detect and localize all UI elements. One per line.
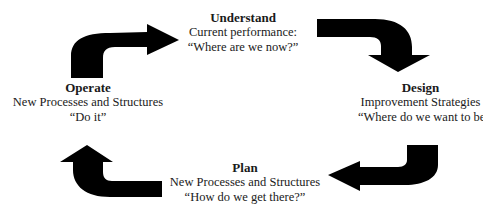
node-title: Operate	[8, 80, 168, 95]
node-operate: Operate New Processes and Structures “Do…	[8, 80, 168, 125]
node-subtitle: Improvement Strategies	[358, 95, 483, 110]
node-plan: Plan New Processes and Structures “How d…	[165, 160, 325, 205]
cycle-diagram: Understand Current performance: “Where a…	[0, 0, 483, 213]
node-question: “Where are we now?”	[183, 40, 303, 55]
node-question: “Do it”	[8, 110, 168, 125]
node-subtitle: New Processes and Structures	[8, 95, 168, 110]
curved-arrow-right-down-icon	[317, 19, 430, 72]
node-understand: Understand Current performance: “Where a…	[183, 10, 303, 55]
node-title: Design	[358, 80, 483, 95]
node-title: Plan	[165, 160, 325, 175]
curved-arrow-up-right-icon	[71, 24, 179, 78]
curved-arrow-down-left-icon	[328, 145, 438, 191]
node-title: Understand	[183, 10, 303, 25]
curved-arrow-left-up-icon	[60, 145, 162, 197]
node-question: “Where do we want to be?”	[358, 110, 483, 125]
node-subtitle: Current performance:	[183, 25, 303, 40]
node-design: Design Improvement Strategies “Where do …	[358, 80, 483, 125]
node-question: “How do we get there?”	[165, 190, 325, 205]
node-subtitle: New Processes and Structures	[165, 175, 325, 190]
